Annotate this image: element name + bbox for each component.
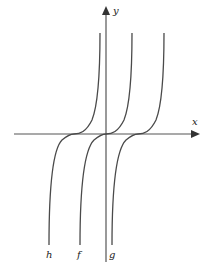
y-axis-arrow-icon	[102, 6, 110, 15]
y-axis-label: y	[112, 5, 119, 16]
label-h: h	[46, 249, 52, 260]
graph-canvas: y x h f g	[0, 0, 205, 272]
curve-g	[112, 33, 164, 245]
x-axis-label: x	[192, 116, 198, 127]
x-axis-arrow-icon	[191, 130, 200, 138]
label-f: f	[76, 249, 83, 260]
label-g: g	[109, 249, 115, 260]
curve-h	[49, 33, 100, 245]
